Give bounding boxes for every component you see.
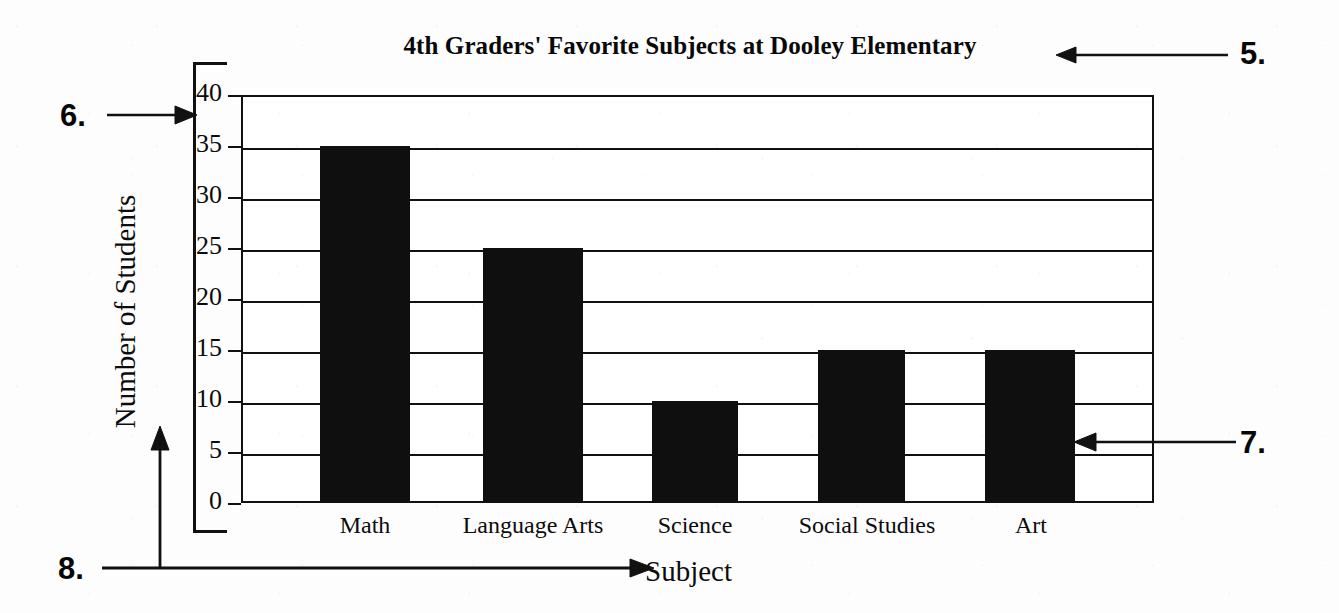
ytick-5: [228, 452, 241, 454]
ylabel-5: 5: [176, 437, 222, 463]
ylabel-30: 30: [176, 182, 222, 208]
ylabel-25: 25: [176, 233, 222, 259]
x-axis-category-labels: Math Language Arts Science Social Studie…: [241, 512, 1154, 546]
ytick-0: [228, 503, 241, 505]
cat-label-social-studies: Social Studies: [767, 512, 967, 539]
cat-label-science: Science: [625, 512, 765, 539]
cat-label-art: Art: [971, 512, 1091, 539]
ylabel-10: 10: [176, 386, 222, 412]
ytick-25: [228, 248, 241, 250]
ylabel-0: 0: [176, 488, 222, 514]
cat-label-math: Math: [285, 512, 445, 539]
ytick-15: [228, 350, 241, 352]
callout-6-number: 6.: [60, 98, 86, 134]
ylabel-15: 15: [176, 335, 222, 361]
ylabel-35: 35: [176, 131, 222, 157]
ytick-35: [228, 146, 241, 148]
ytick-30: [228, 197, 241, 199]
ytick-20: [228, 299, 241, 301]
worksheet-page: 4th Graders' Favorite Subjects at Dooley…: [0, 0, 1339, 613]
ylabel-40: 40: [176, 80, 222, 106]
callout-8-number: 8.: [58, 551, 84, 587]
ylabel-20: 20: [176, 284, 222, 310]
callout-7-number: 7.: [1240, 425, 1266, 461]
y-axis-labels: 40 35 30 25 20 15 10 5 0: [172, 0, 222, 613]
y-axis-title: Number of Students: [109, 162, 142, 462]
callout-5-number: 5.: [1240, 36, 1266, 72]
ytick-10: [228, 401, 241, 403]
cat-label-language-arts: Language Arts: [443, 512, 623, 539]
x-axis-title: Subject: [645, 555, 732, 588]
ytick-40: [228, 95, 241, 97]
